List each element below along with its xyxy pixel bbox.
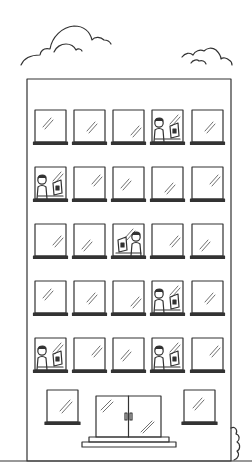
window (34, 224, 68, 259)
cloud-right (182, 48, 232, 65)
entrance (82, 396, 176, 447)
window (112, 110, 146, 145)
window (112, 224, 146, 259)
window (151, 338, 185, 373)
window (191, 224, 225, 259)
building-body (0, 79, 252, 461)
bush (231, 427, 240, 460)
window (34, 281, 68, 316)
window (34, 110, 68, 145)
window (112, 338, 146, 373)
window (112, 167, 146, 202)
window (73, 281, 107, 316)
cloud-left (21, 26, 111, 65)
window (73, 224, 107, 259)
window (191, 167, 225, 202)
window (34, 338, 68, 373)
window (191, 338, 225, 373)
windows-grid (34, 110, 225, 373)
office-worker (116, 232, 141, 256)
window (151, 281, 185, 316)
window (112, 281, 146, 316)
window (151, 224, 185, 259)
building-illustration (0, 0, 252, 473)
window (73, 338, 107, 373)
window (191, 110, 225, 145)
lower-windows (45, 390, 217, 425)
window (151, 110, 185, 145)
window (151, 167, 185, 202)
window (191, 281, 225, 316)
window (73, 110, 107, 145)
window (34, 167, 68, 202)
window (73, 167, 107, 202)
